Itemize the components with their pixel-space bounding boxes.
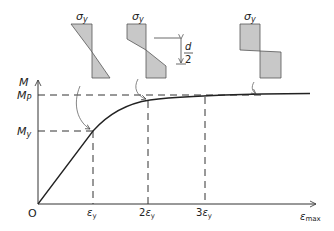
moment-curve xyxy=(38,94,310,205)
sigma-label-3: σy xyxy=(244,10,256,24)
moment-curvature-diagram: d 2 σy σy σy M MP My O εy 2εy 3εy εmax xyxy=(0,0,334,231)
stress-diagram-elastic xyxy=(71,24,110,78)
mp-label: MP xyxy=(17,89,32,103)
my-label: My xyxy=(17,125,32,139)
dashed-guides xyxy=(38,95,262,204)
diagram-svg: d 2 σy σy σy M MP My O εy 2εy 3εy εmax xyxy=(0,0,334,231)
origin-label: O xyxy=(28,207,37,220)
dim-denominator: 2 xyxy=(185,54,191,65)
y-axis-label: M xyxy=(19,76,29,89)
sigma-label-2: σy xyxy=(132,10,144,24)
x-axis-label: εmax xyxy=(300,211,321,223)
x-tick-3ey: 3εy xyxy=(196,207,212,220)
sigma-label-1: σy xyxy=(76,10,88,24)
dim-numerator: d xyxy=(185,41,192,52)
x-tick-ey: εy xyxy=(87,207,97,220)
stress-diagram-plastic xyxy=(240,24,281,78)
x-tick-2ey: 2εy xyxy=(139,207,155,220)
stress-diagram-partial xyxy=(127,24,166,78)
